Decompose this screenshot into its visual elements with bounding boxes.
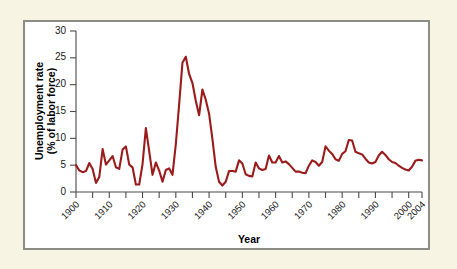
x-tick-label: 1980 xyxy=(325,199,348,222)
x-tick-label: 1910 xyxy=(92,199,115,222)
x-axis-title: Year xyxy=(238,233,260,245)
unemployment-rate-line xyxy=(76,57,422,186)
x-tick-marks xyxy=(76,192,422,198)
y-tick-label: 25 xyxy=(55,51,67,62)
x-tick-label: 1970 xyxy=(292,199,315,222)
x-tick-labels: 1900191019201930194019501960197019801990… xyxy=(59,199,428,222)
unemployment-line-chart: 051015202530 190019101920193019401950196… xyxy=(0,0,457,269)
y-axis-title: Unemployment rate (% of labor force) xyxy=(33,62,57,160)
x-tick-label: 1940 xyxy=(192,199,215,222)
x-tick-label: 1930 xyxy=(158,199,181,222)
x-axis: 1900191019201930194019501960197019801990… xyxy=(59,192,428,221)
y-tick-label: 0 xyxy=(60,186,66,197)
y-tick-label: 30 xyxy=(55,25,67,36)
y-axis: 051015202530 xyxy=(55,25,76,197)
x-tick-label: 1950 xyxy=(225,199,248,222)
y-tick-label: 5 xyxy=(60,159,66,170)
y-tick-marks xyxy=(70,31,76,192)
x-tick-label: 1920 xyxy=(125,199,148,222)
y-axis-title-line2: (% of labor force) xyxy=(45,68,57,154)
x-tick-label: 1990 xyxy=(358,199,381,222)
figure-container: 051015202530 190019101920193019401950196… xyxy=(0,0,457,269)
y-axis-title-line1: Unemployment rate xyxy=(33,62,45,160)
x-tick-label: 1960 xyxy=(258,199,281,222)
x-tick-label: 1900 xyxy=(59,199,82,222)
